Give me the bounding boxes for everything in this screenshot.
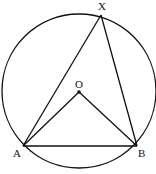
label-b: B [138,147,145,159]
circle-geometry-diagram: O A B X [0,0,156,174]
label-x: X [98,0,106,12]
label-a: A [13,147,21,159]
center-point-o [77,90,81,94]
label-o: O [75,78,83,90]
segment-ax [23,15,101,146]
segment-ob [79,92,137,146]
